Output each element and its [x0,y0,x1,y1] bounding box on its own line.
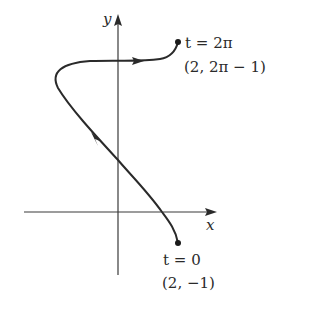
start-point-dot [175,240,181,246]
parametric-curve [56,42,178,243]
end-point-dot [175,39,181,45]
direction-arrow-icon [91,132,102,146]
end-point-param-label: t = 2π [185,36,233,51]
y-axis-label: y [103,12,111,27]
start-point-param-label: t = 0 [163,253,201,268]
start-point-coords-label: (2, −1) [162,276,215,291]
x-axis-label: x [206,218,214,233]
end-point-coords-label: (2, 2π − 1) [184,60,266,75]
